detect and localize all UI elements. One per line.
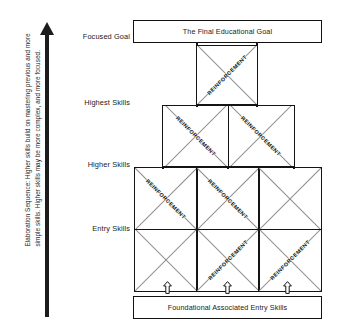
tier-label-focused-goal: Focused Goal <box>58 32 130 41</box>
pyramid-cell-t3r1c2: REINFORCEMENT <box>196 167 260 230</box>
pyramid-cell-t2c2: REINFORCEMENT <box>228 105 295 167</box>
foundational-entry-skills-label: Foundational Associated Entry Skills <box>168 303 287 312</box>
pyramid-cell-t3r1c1: REINFORCEMENT <box>134 167 198 230</box>
final-educational-goal-box: The Final Educational Goal <box>133 20 322 43</box>
tier-label-highest-skills: Highest Skills <box>58 98 130 107</box>
elaboration-arrow-shaft-icon <box>45 32 49 317</box>
tier-label-entry-skills: Entry Skills <box>58 224 130 233</box>
diagram-canvas: Elaboration Sequence: Higher skills buil… <box>0 0 338 329</box>
foundation-up-arrow-icon <box>283 281 292 294</box>
pyramid-cell-t1c1: REINFORCEMENT <box>196 45 258 105</box>
pyramid-cell-t3r1c3 <box>258 167 322 230</box>
foundational-entry-skills-box: Foundational Associated Entry Skills <box>133 296 322 319</box>
foundation-up-arrow-icon <box>163 281 172 294</box>
higher-skills-tier: REINFORCEMENT REINFORCEMENT <box>162 105 295 167</box>
highest-skills-tier: REINFORCEMENT <box>196 45 258 105</box>
final-educational-goal-label: The Final Educational Goal <box>183 27 272 36</box>
foundation-up-arrow-icon <box>223 281 232 294</box>
pyramid-cell-t2c1: REINFORCEMENT <box>162 105 229 167</box>
entry-skills-upper-row: REINFORCEMENT REINFORCEMENT <box>134 167 322 230</box>
elaboration-sequence-caption: Elaboration Sequence: Higher skills buil… <box>23 15 42 247</box>
entry-skills-tier: REINFORCEMENT REINFORCEMENT REINFORCEMEN <box>134 167 322 292</box>
tier-label-higher-skills: Higher Skills <box>58 160 130 169</box>
